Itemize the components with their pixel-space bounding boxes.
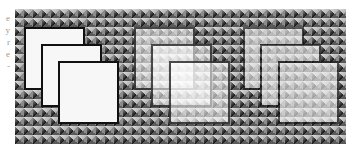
group-group-opacity xyxy=(15,9,346,144)
margin-text-line: r xyxy=(0,36,10,48)
margin-text-line: - xyxy=(0,60,10,72)
group-square-front xyxy=(278,61,339,124)
margin-text-line: e xyxy=(0,12,10,24)
studded-background-panel xyxy=(15,9,346,144)
margin-text-line: y xyxy=(0,24,10,36)
cropped-margin-text: e y r e - xyxy=(0,12,10,72)
margin-text-line: e xyxy=(0,48,10,60)
